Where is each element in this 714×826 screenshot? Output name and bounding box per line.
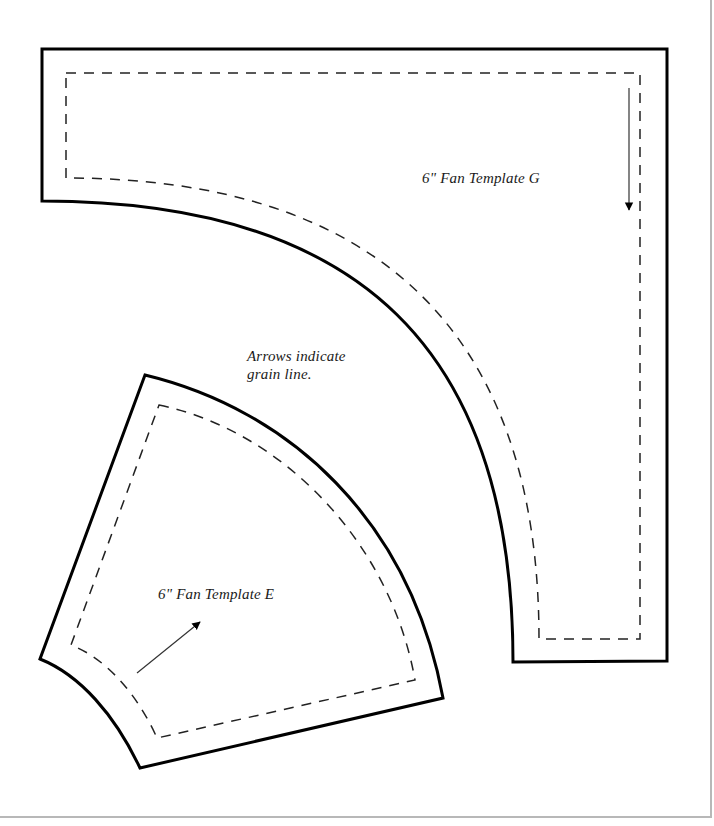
template-g — [42, 49, 667, 662]
template-g-cut-line — [42, 49, 667, 662]
grain-line-note-line2: grain line. — [247, 365, 346, 383]
template-g-label: 6" Fan Template G — [422, 169, 540, 187]
grain-line-note-line1: Arrows indicate — [247, 347, 346, 365]
template-e-label: 6" Fan Template E — [158, 585, 274, 603]
template-g-seam-line — [66, 73, 640, 639]
grain-line-note: Arrows indicate grain line. — [247, 347, 346, 383]
template-e — [40, 375, 443, 768]
grain-arrow-diagonal-icon — [137, 622, 200, 673]
pattern-sheet — [0, 0, 714, 826]
template-e-seam-line — [71, 405, 415, 738]
template-e-cut-line — [40, 375, 443, 768]
